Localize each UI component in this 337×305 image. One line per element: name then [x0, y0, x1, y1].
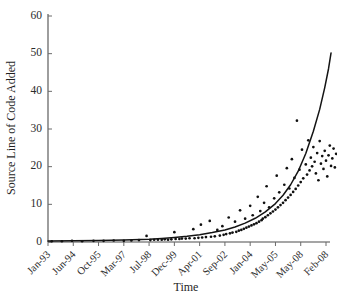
data-point — [255, 222, 258, 225]
data-point — [304, 163, 307, 166]
data-point — [256, 195, 259, 198]
data-point — [197, 237, 200, 240]
data-point — [234, 220, 237, 223]
data-point — [184, 237, 187, 240]
data-point — [277, 206, 280, 209]
x-axis-title: Time — [174, 280, 199, 294]
data-point — [265, 185, 268, 188]
data-point — [309, 156, 312, 159]
y-tick-label: 10 — [31, 197, 43, 209]
data-point — [251, 214, 254, 217]
y-axis-ticks — [48, 16, 52, 242]
y-tick-label: 30 — [31, 122, 43, 134]
y-tick-label: 40 — [31, 84, 43, 96]
data-point — [253, 223, 256, 226]
data-point — [331, 157, 334, 160]
data-point — [267, 214, 270, 217]
data-point — [240, 229, 243, 232]
data-point — [263, 201, 266, 204]
x-tick-label: Sep-02 — [201, 249, 230, 278]
x-tick-label: Jun-94 — [50, 248, 79, 277]
data-point — [237, 229, 240, 232]
data-point — [311, 165, 314, 168]
data-point — [208, 220, 211, 223]
data-point — [274, 208, 277, 211]
data-point — [210, 235, 213, 238]
data-point — [275, 174, 278, 177]
data-point — [244, 217, 247, 220]
y-tick-label: 20 — [31, 159, 43, 171]
data-point — [273, 197, 276, 200]
data-point — [333, 166, 336, 169]
exponential-fit-curve — [48, 53, 331, 241]
data-point — [327, 154, 330, 157]
data-point — [330, 165, 333, 168]
data-point — [284, 199, 287, 202]
y-axis-tick-labels: 0102030405060 — [31, 9, 43, 247]
data-point — [306, 173, 309, 176]
data-point — [297, 184, 300, 187]
x-tick-label: Oct-95 — [75, 249, 103, 277]
scatter-points-group — [50, 119, 337, 242]
data-point — [200, 223, 203, 226]
data-point — [318, 140, 321, 143]
data-point — [245, 226, 248, 229]
y-axis-group: 0102030405060 — [31, 9, 53, 247]
data-point — [320, 162, 323, 165]
data-point — [283, 183, 286, 186]
data-point — [193, 237, 196, 240]
data-point — [292, 191, 295, 194]
data-point — [279, 204, 282, 207]
data-point — [285, 167, 288, 170]
data-point — [289, 194, 292, 197]
data-point — [250, 224, 253, 227]
data-point — [261, 217, 264, 220]
data-point — [302, 177, 305, 180]
x-tick-label: Dec-99 — [149, 249, 179, 279]
data-point — [287, 196, 290, 199]
chart-container: 0102030405060 Jan-93Jun-94Oct-95Mar-97Ju… — [0, 0, 337, 305]
data-point — [264, 216, 267, 219]
data-point — [272, 210, 275, 213]
x-tick-label: May-05 — [249, 249, 280, 280]
data-point — [181, 237, 184, 240]
data-point — [259, 210, 262, 213]
data-point — [225, 233, 228, 236]
data-point — [316, 152, 319, 155]
x-axis-tick-labels: Jan-93Jun-94Oct-95Mar-97Jul-98Dec-99Apr-… — [25, 248, 331, 280]
x-tick-label: May-08 — [274, 249, 305, 280]
data-point — [258, 220, 261, 223]
data-point — [243, 227, 246, 230]
data-point — [249, 204, 252, 207]
data-point — [299, 181, 302, 184]
y-axis-title: Source Line of Code Added — [4, 61, 18, 195]
x-tick-label: Jan-93 — [25, 249, 53, 277]
data-point — [145, 235, 148, 238]
data-point — [301, 148, 304, 151]
data-point — [173, 231, 176, 234]
data-point — [221, 225, 224, 228]
y-tick-label: 60 — [31, 9, 43, 21]
data-point — [178, 238, 181, 241]
data-point — [231, 231, 234, 234]
data-point — [296, 119, 299, 122]
data-point — [248, 225, 251, 228]
data-point — [213, 235, 216, 238]
data-point — [167, 238, 170, 241]
data-point — [322, 168, 325, 171]
x-axis-ticks — [48, 242, 326, 246]
data-point — [235, 230, 238, 233]
data-point — [323, 149, 326, 152]
x-axis-group: Jan-93Jun-94Oct-95Mar-97Jul-98Dec-99Apr-… — [25, 242, 331, 280]
data-point — [315, 172, 318, 175]
data-point — [201, 236, 204, 239]
data-point — [282, 201, 285, 204]
y-tick-label: 50 — [31, 46, 43, 58]
x-tick-label: Apr-01 — [175, 249, 204, 278]
data-point — [239, 209, 242, 212]
data-point — [313, 160, 316, 163]
data-point — [328, 144, 331, 147]
data-point — [325, 159, 328, 162]
data-point — [205, 236, 208, 239]
data-point — [269, 212, 272, 215]
